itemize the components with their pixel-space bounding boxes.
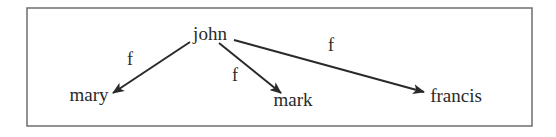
arrow-john-to-mary — [113, 42, 190, 93]
edge-label-john-mark: f — [232, 65, 238, 85]
node-john: john — [192, 23, 227, 44]
edge-label-john-mary: f — [127, 49, 133, 69]
edge-label-john-francis: f — [328, 35, 334, 55]
tree-diagram: f f f john mary mark francis — [0, 0, 556, 137]
node-mark: mark — [273, 89, 313, 110]
node-mary: mary — [69, 84, 109, 105]
edge-john-francis: f — [234, 35, 424, 92]
node-francis: francis — [430, 85, 482, 106]
edge-john-mary: f — [113, 42, 190, 93]
